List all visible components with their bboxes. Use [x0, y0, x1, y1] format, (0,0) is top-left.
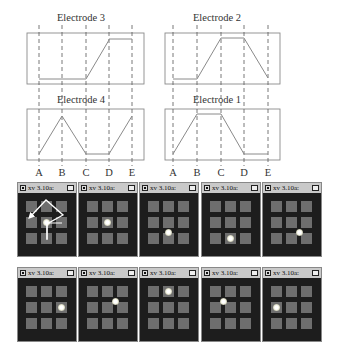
electrode-pad — [210, 217, 221, 228]
chart-frame-electrode-3 — [27, 33, 144, 84]
window-titlebar[interactable]: xv 3.10a: — [18, 183, 76, 193]
window-maximize-icon[interactable] — [67, 270, 74, 276]
window-maximize-icon[interactable] — [128, 185, 135, 191]
window-titlebar[interactable]: xv 3.10a: — [140, 183, 198, 193]
window-titlebar[interactable]: xv 3.10a: — [140, 268, 198, 278]
xv-window[interactable]: xv 3.10a: — [262, 267, 322, 342]
window-maximize-icon[interactable] — [128, 270, 135, 276]
electrode-pad — [87, 318, 98, 329]
electrode-array-view — [18, 193, 76, 256]
window-menu-icon[interactable] — [142, 270, 148, 276]
electrode-pad — [26, 318, 37, 329]
electrode-pad — [240, 318, 251, 329]
electrode-pad — [178, 233, 189, 244]
electrode-pad — [148, 201, 159, 212]
chart-title-electrode-2: Electrode 2 — [193, 12, 241, 23]
electrode-array-view — [202, 278, 260, 341]
window-titlebar[interactable]: xv 3.10a: — [202, 183, 260, 193]
window-titlebar[interactable]: xv 3.10a: — [18, 268, 76, 278]
window-maximize-icon[interactable] — [67, 185, 74, 191]
window-maximize-icon[interactable] — [312, 185, 319, 191]
electrode-pad — [225, 217, 236, 228]
droplet-marker — [112, 298, 119, 305]
window-title: xv 3.10a: — [89, 183, 128, 193]
droplet-marker — [104, 219, 111, 226]
xv-window[interactable]: xv 3.10a: — [78, 182, 138, 257]
electrode-pad — [102, 302, 113, 313]
electrode-pad — [163, 201, 174, 212]
electrode-waveform-diagram: Electrode 3 Electrode 2 Electrode 4 Elec… — [0, 0, 338, 180]
xv-window[interactable]: xv 3.10a: — [201, 182, 261, 257]
axis-label-a: A — [35, 167, 43, 178]
electrode-pad — [210, 233, 221, 244]
electrode-pad — [178, 201, 189, 212]
electrode-pad — [240, 201, 251, 212]
electrode-array-view — [140, 278, 198, 341]
xv-window[interactable]: xv 3.10a: — [139, 267, 199, 342]
electrode-pad — [117, 318, 128, 329]
window-titlebar[interactable]: xv 3.10a: — [263, 268, 321, 278]
electrode-pad — [56, 286, 67, 297]
electrode-pad — [87, 217, 98, 228]
window-menu-icon[interactable] — [265, 270, 271, 276]
window-maximize-icon[interactable] — [251, 185, 258, 191]
droplet-marker — [165, 288, 172, 295]
electrode-pad — [56, 318, 67, 329]
electrode-pad — [210, 286, 221, 297]
window-menu-icon[interactable] — [204, 270, 210, 276]
window-menu-icon[interactable] — [81, 270, 87, 276]
electrode-pad — [148, 233, 159, 244]
electrode-pad — [225, 201, 236, 212]
chart-frame-electrode-2 — [165, 33, 280, 84]
electrode-pad — [210, 318, 221, 329]
electrode-pad — [87, 286, 98, 297]
axis-label-e: E — [129, 167, 135, 178]
xv-window[interactable]: xv 3.10a: — [17, 182, 77, 257]
window-title: xv 3.10a: — [28, 268, 67, 278]
window-maximize-icon[interactable] — [312, 270, 319, 276]
window-menu-icon[interactable] — [20, 185, 26, 191]
electrode-pad — [163, 318, 174, 329]
electrode-array-view — [79, 278, 137, 341]
window-maximize-icon[interactable] — [189, 185, 196, 191]
window-maximize-icon[interactable] — [251, 270, 258, 276]
electrode-pad — [240, 302, 251, 313]
chart-title-electrode-1: Electrode 1 — [193, 94, 241, 105]
window-titlebar[interactable]: xv 3.10a: — [202, 268, 260, 278]
electrode-pad — [301, 318, 312, 329]
electrode-pad — [102, 201, 113, 212]
electrode-pad — [271, 201, 282, 212]
window-titlebar[interactable]: xv 3.10a: — [79, 183, 137, 193]
electrode-pad — [178, 318, 189, 329]
xv-window[interactable]: xv 3.10a: — [201, 267, 261, 342]
electrode-pad — [301, 286, 312, 297]
window-menu-icon[interactable] — [142, 185, 148, 191]
electrode-pad — [163, 217, 174, 228]
electrode-array-view — [18, 278, 76, 341]
window-menu-icon[interactable] — [265, 185, 271, 191]
window-title: xv 3.10a: — [212, 183, 251, 193]
electrode-pad — [286, 286, 297, 297]
electrode-pad — [240, 217, 251, 228]
window-title: xv 3.10a: — [89, 268, 128, 278]
xv-window[interactable]: xv 3.10a: — [139, 182, 199, 257]
window-title: xv 3.10a: — [150, 268, 189, 278]
xv-window[interactable]: xv 3.10a: — [78, 267, 138, 342]
axis-label-c: C — [82, 167, 89, 178]
electrode-pad — [117, 286, 128, 297]
electrode-pad — [271, 217, 282, 228]
electrode-pad — [210, 302, 221, 313]
electrode-pad — [240, 286, 251, 297]
electrode-array-view — [263, 278, 321, 341]
window-menu-icon[interactable] — [81, 185, 87, 191]
window-titlebar[interactable]: xv 3.10a: — [263, 183, 321, 193]
electrode-pad — [225, 286, 236, 297]
electrode-pad — [148, 286, 159, 297]
window-menu-icon[interactable] — [20, 270, 26, 276]
window-menu-icon[interactable] — [204, 185, 210, 191]
window-titlebar[interactable]: xv 3.10a: — [79, 268, 137, 278]
xv-window[interactable]: xv 3.10a: — [17, 267, 77, 342]
window-maximize-icon[interactable] — [189, 270, 196, 276]
electrode-pad — [286, 302, 297, 313]
xv-window[interactable]: xv 3.10a: — [262, 182, 322, 257]
